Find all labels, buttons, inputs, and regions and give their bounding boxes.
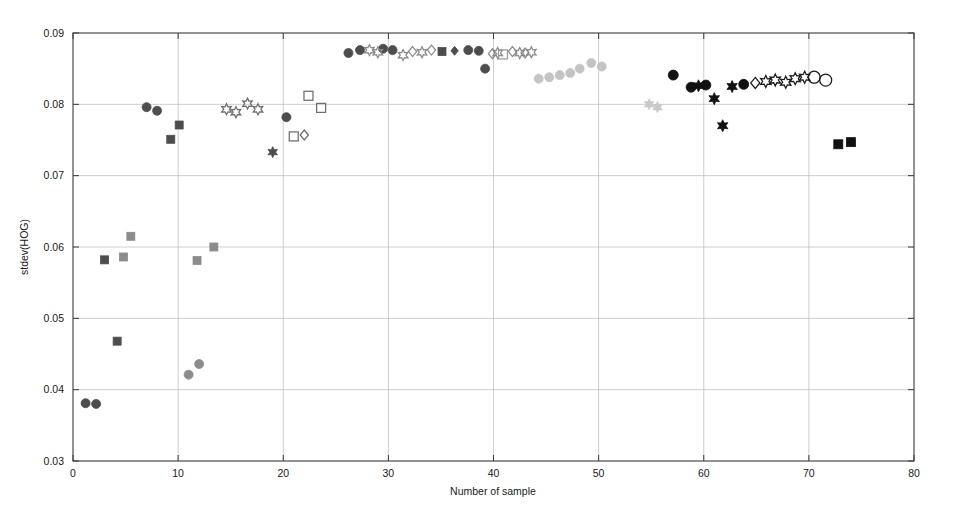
y-axis-label: stdev(HOG) [18,219,30,275]
data-point [474,46,483,55]
x-tick-label: 0 [70,467,76,479]
x-tick-label: 60 [698,467,710,479]
x-tick-label: 20 [277,467,289,479]
y-tick-label: 0.08 [44,98,65,110]
data-point [587,58,596,67]
data-point [545,73,554,82]
scatter-plot-figure: 01020304050607080 0.030.040.050.060.070.… [0,0,962,521]
data-point [668,70,678,80]
data-point [834,140,843,149]
data-point [81,399,90,408]
x-tick-label: 30 [383,467,395,479]
data-point [282,113,291,122]
data-point [846,138,855,147]
x-tick-label: 80 [908,467,920,479]
x-axis-label: Number of sample [450,485,536,497]
plot-canvas: 01020304050607080 0.030.040.050.060.070.… [0,0,962,521]
data-point [566,68,575,77]
data-point [210,243,218,251]
data-point [481,64,490,73]
plot-background [0,0,962,521]
y-tick-label: 0.09 [44,27,65,39]
y-tick-label: 0.05 [44,312,65,324]
data-point [355,46,364,55]
data-point [534,74,543,83]
data-point [193,257,201,265]
data-point [464,46,473,55]
data-point [127,232,135,240]
data-point [175,121,183,129]
data-point [142,103,151,112]
data-point [555,71,564,80]
data-point [167,135,175,143]
x-tick-label: 40 [488,467,500,479]
data-point [184,370,193,379]
data-point [344,48,353,57]
data-point [388,46,397,55]
data-point [92,399,101,408]
y-tick-label: 0.04 [44,383,65,395]
data-point [597,62,606,71]
y-tick-label: 0.07 [44,169,65,181]
data-point [195,359,204,368]
y-tick-label: 0.03 [44,455,65,467]
data-point [153,106,162,115]
x-tick-label: 70 [803,467,815,479]
data-point [379,44,388,53]
data-point [113,337,121,345]
x-tick-label: 10 [172,467,184,479]
data-point [739,79,749,89]
data-point [119,253,127,261]
data-point [438,48,446,56]
x-tick-label: 50 [593,467,605,479]
y-tick-label: 0.06 [44,241,65,253]
data-point [575,64,584,73]
data-point [101,256,109,264]
